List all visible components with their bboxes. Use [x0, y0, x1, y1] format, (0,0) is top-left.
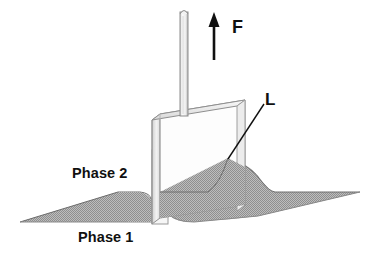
label-force-f: F [232, 18, 243, 36]
figure-root: Phase 2 Phase 1 F L [0, 0, 371, 258]
suspension-rod [180, 11, 188, 117]
label-phase-2: Phase 2 [72, 166, 128, 181]
label-phase-1: Phase 1 [78, 230, 134, 245]
interface-plane-left [20, 192, 152, 222]
label-contact-line-l: L [265, 91, 275, 108]
diagram-canvas [0, 0, 371, 258]
force-arrow [209, 12, 220, 60]
